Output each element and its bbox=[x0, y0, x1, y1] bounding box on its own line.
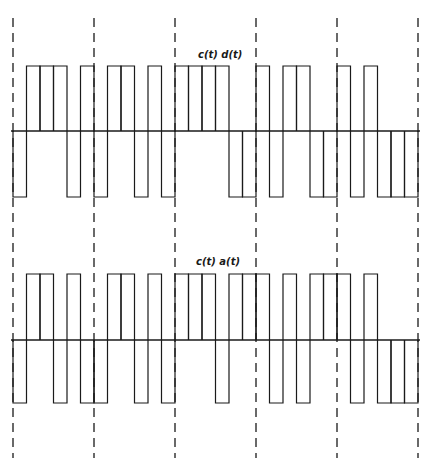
chip-pulse bbox=[148, 274, 162, 340]
chip-pulse bbox=[121, 66, 135, 131]
chip-pulse bbox=[148, 66, 162, 131]
chip-pulse bbox=[67, 131, 81, 197]
chip-pulse bbox=[13, 131, 27, 197]
chip-pulse bbox=[40, 66, 54, 131]
chip-pulse bbox=[229, 274, 243, 340]
chip-pulse bbox=[108, 274, 122, 340]
chip-pulse bbox=[162, 340, 176, 403]
chip-pulse bbox=[202, 274, 216, 340]
chip-pulse bbox=[135, 340, 149, 403]
chip-pulse bbox=[27, 66, 41, 131]
chip-pulse bbox=[243, 131, 257, 197]
chip-pulse bbox=[189, 274, 203, 340]
chip-pulse bbox=[94, 340, 108, 403]
chip-pulse bbox=[324, 274, 338, 340]
chip-pulse bbox=[216, 66, 230, 131]
chip-pulse bbox=[364, 274, 378, 340]
chip-pulse bbox=[216, 340, 230, 403]
chip-pulse bbox=[81, 340, 95, 403]
chip-pulse bbox=[40, 274, 54, 340]
chip-pulse bbox=[189, 66, 203, 131]
chip-pulse bbox=[54, 340, 68, 403]
chip-pulse bbox=[283, 66, 297, 131]
chip-pulse bbox=[391, 340, 405, 403]
chip-pulse bbox=[94, 131, 108, 197]
chip-pulse bbox=[405, 131, 419, 197]
chip-pulse bbox=[175, 274, 189, 340]
chip-pulse bbox=[351, 340, 365, 403]
chip-pulse bbox=[256, 274, 270, 340]
chip-pulse bbox=[202, 66, 216, 131]
chip-pulse bbox=[108, 66, 122, 131]
chip-pulse bbox=[81, 66, 95, 131]
chip-pulse bbox=[405, 340, 419, 403]
chip-pulse bbox=[270, 131, 284, 197]
chip-pulse bbox=[310, 131, 324, 197]
chip-pulse bbox=[54, 66, 68, 131]
waveform-cd bbox=[11, 66, 420, 197]
chip-pulse bbox=[337, 274, 351, 340]
chip-pulse bbox=[324, 131, 338, 197]
chip-pulse bbox=[310, 274, 324, 340]
chip-pulse bbox=[364, 66, 378, 131]
chip-pulse bbox=[283, 274, 297, 340]
chip-pulse bbox=[135, 131, 149, 197]
chip-pulse bbox=[27, 274, 41, 340]
waveform-label-ca: c(t) a(t) bbox=[196, 256, 240, 267]
chip-pulse bbox=[67, 274, 81, 340]
chip-pulse bbox=[229, 131, 243, 197]
chip-pulse bbox=[351, 131, 365, 197]
chip-pulse bbox=[243, 274, 257, 340]
chip-pulse bbox=[256, 66, 270, 131]
spread-spectrum-waveform-figure: c(t) d(t) c(t) a(t) bbox=[0, 0, 432, 471]
chip-pulse bbox=[378, 340, 392, 403]
chip-pulse bbox=[378, 131, 392, 197]
chip-pulse bbox=[391, 131, 405, 197]
chip-pulse bbox=[270, 340, 284, 403]
chip-pulse bbox=[175, 66, 189, 131]
waveform-ca bbox=[11, 274, 420, 403]
chip-pulse bbox=[121, 274, 135, 340]
chip-pulse bbox=[337, 66, 351, 131]
chip-pulse bbox=[297, 66, 311, 131]
chip-pulse bbox=[162, 131, 176, 197]
chip-pulse bbox=[297, 340, 311, 403]
chip-pulse bbox=[13, 340, 27, 403]
waveform-label-cd: c(t) d(t) bbox=[198, 49, 242, 60]
